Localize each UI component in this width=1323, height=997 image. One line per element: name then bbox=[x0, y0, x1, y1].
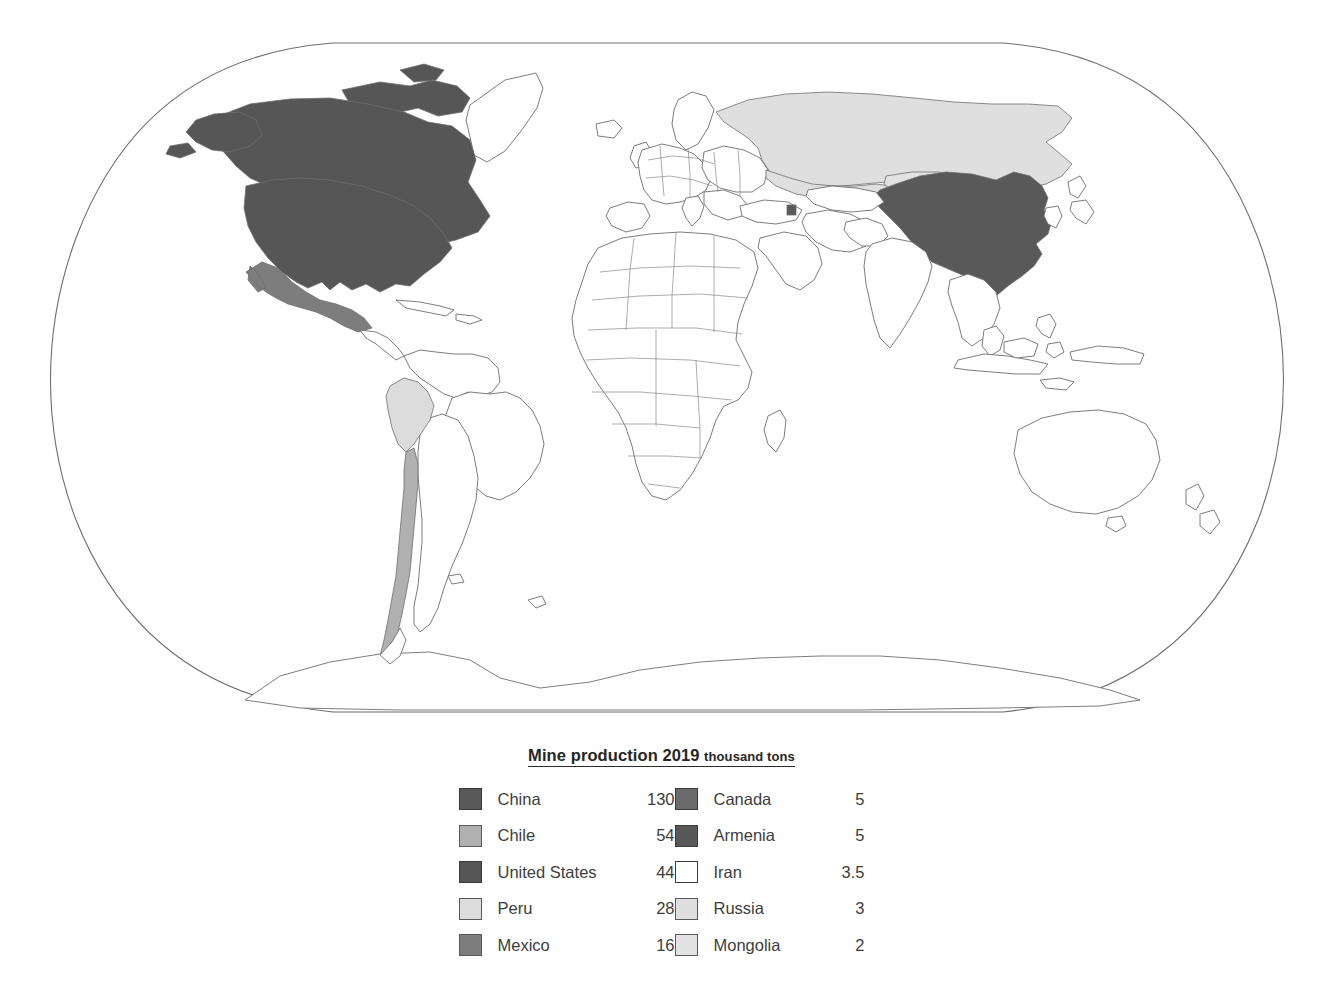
legend-column-right: Canada 5 Armenia 5 Iran 3.5 Russia 3 bbox=[675, 781, 865, 964]
region-indochina-peninsula bbox=[982, 326, 1004, 356]
legend-country-value: 54 bbox=[631, 826, 675, 845]
legend-item-peru[interactable]: Peru 28 bbox=[459, 891, 675, 928]
legend-country-value: 28 bbox=[631, 899, 675, 918]
region-india bbox=[864, 238, 932, 348]
legend-country-value: 2 bbox=[827, 936, 865, 955]
legend-country-name: China bbox=[482, 790, 631, 809]
region-new-guinea bbox=[1070, 346, 1144, 364]
region-armenia bbox=[787, 205, 796, 215]
legend-country-name: United States bbox=[482, 863, 631, 882]
legend-country-value: 44 bbox=[631, 863, 675, 882]
legend-title-main: Mine production 2019 bbox=[528, 746, 700, 764]
legend-country-name: Russia bbox=[698, 899, 827, 918]
legend-country-value: 16 bbox=[631, 936, 675, 955]
legend-item-armenia[interactable]: Armenia 5 bbox=[675, 818, 865, 855]
legend-country-name: Canada bbox=[698, 790, 827, 809]
region-tasmania bbox=[1106, 516, 1126, 532]
region-argentina bbox=[414, 414, 478, 632]
color-swatch-icon bbox=[675, 898, 698, 920]
legend-country-value: 3 bbox=[827, 899, 865, 918]
region-western-europe bbox=[638, 144, 712, 204]
world-choropleth-figure: .land { fill:#ffffff; stroke:#6e6e6e; st… bbox=[0, 0, 1323, 997]
region-chile bbox=[380, 448, 418, 660]
region-antarctica bbox=[245, 652, 1140, 710]
region-central-america bbox=[360, 330, 404, 360]
region-new-zealand bbox=[1186, 484, 1220, 534]
region-falklands bbox=[448, 574, 464, 584]
legend-item-canada[interactable]: Canada 5 bbox=[675, 781, 865, 818]
region-africa bbox=[572, 232, 758, 500]
legend-item-mexico[interactable]: Mexico 16 bbox=[459, 927, 675, 964]
legend-country-value: 5 bbox=[827, 826, 865, 845]
legend-country-name: Chile bbox=[482, 826, 631, 845]
legend-country-name: Armenia bbox=[698, 826, 827, 845]
legend-country-name: Mongolia bbox=[698, 936, 827, 955]
color-swatch-icon bbox=[459, 861, 482, 883]
legend-column-left: China 130 Chile 54 United States 44 Peru bbox=[459, 781, 675, 964]
region-philippines bbox=[1036, 314, 1064, 358]
region-indonesia bbox=[954, 354, 1074, 390]
legend-item-mongolia[interactable]: Mongolia 2 bbox=[675, 927, 865, 964]
legend-country-name: Peru bbox=[482, 899, 631, 918]
color-swatch-icon bbox=[459, 788, 482, 810]
legend-country-value: 3.5 bbox=[827, 863, 865, 882]
region-balkans bbox=[704, 190, 748, 220]
region-cuba bbox=[396, 300, 454, 316]
region-hispaniola bbox=[456, 314, 482, 324]
region-japan bbox=[1068, 176, 1094, 224]
region-arabia bbox=[758, 232, 822, 290]
map-legend: Mine production 2019 thousand tons China… bbox=[0, 735, 1323, 997]
legend-item-united-states[interactable]: United States 44 bbox=[459, 854, 675, 891]
legend-title-unit: thousand tons bbox=[704, 749, 795, 764]
region-iberia bbox=[606, 202, 650, 232]
legend-item-chile[interactable]: Chile 54 bbox=[459, 818, 675, 855]
world-map-svg: .land { fill:#ffffff; stroke:#6e6e6e; st… bbox=[0, 0, 1323, 735]
legend-country-name: Iran bbox=[698, 863, 827, 882]
region-scandinavia bbox=[672, 92, 714, 150]
region-south-georgia bbox=[528, 596, 546, 608]
color-swatch-icon bbox=[675, 934, 698, 956]
color-swatch-icon bbox=[675, 825, 698, 847]
legend-title-container: Mine production 2019 thousand tons bbox=[0, 735, 1323, 767]
region-borneo bbox=[1004, 338, 1038, 358]
region-australia bbox=[1014, 410, 1160, 514]
color-swatch-icon bbox=[459, 934, 482, 956]
region-greenland bbox=[466, 73, 543, 162]
color-swatch-icon bbox=[459, 825, 482, 847]
color-swatch-icon bbox=[675, 861, 698, 883]
legend-country-name: Mexico bbox=[482, 936, 631, 955]
legend-item-russia[interactable]: Russia 3 bbox=[675, 891, 865, 928]
region-iceland bbox=[596, 120, 622, 138]
region-italy bbox=[682, 196, 704, 226]
color-swatch-icon bbox=[459, 898, 482, 920]
legend-item-china[interactable]: China 130 bbox=[459, 781, 675, 818]
legend-country-value: 5 bbox=[827, 790, 865, 809]
legend-item-iran[interactable]: Iran 3.5 bbox=[675, 854, 865, 891]
legend-country-value: 130 bbox=[631, 790, 675, 809]
color-swatch-icon bbox=[675, 788, 698, 810]
legend-columns: China 130 Chile 54 United States 44 Peru bbox=[0, 781, 1323, 964]
legend-title: Mine production 2019 thousand tons bbox=[528, 746, 795, 767]
world-map: .land { fill:#ffffff; stroke:#6e6e6e; st… bbox=[0, 0, 1323, 735]
region-madagascar bbox=[764, 410, 786, 452]
region-eastern-europe bbox=[702, 146, 768, 192]
